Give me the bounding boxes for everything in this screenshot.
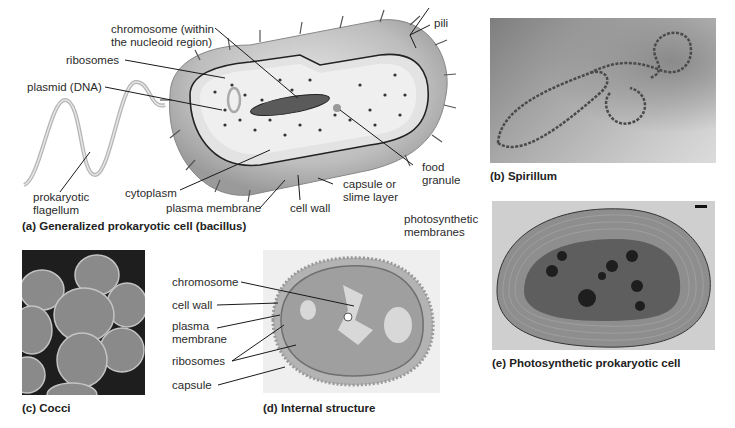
label-plasma-membrane: plasma membrane: [166, 202, 261, 215]
caption-d: (d) Internal structure: [263, 402, 375, 414]
label-cytoplasm: cytoplasm: [125, 187, 177, 200]
caption-b: (b) Spirillum: [490, 170, 557, 182]
label-pili: pili: [434, 17, 448, 30]
cocci-micrograph: [22, 250, 145, 395]
food-granule: [333, 104, 341, 112]
spirillum-micrograph: [490, 18, 716, 163]
label-d-ribosomes: ribosomes: [172, 355, 225, 368]
panel-a-bacillus-diagram: chromosome (within the nucleoid region) …: [0, 0, 460, 240]
scale-bar: [695, 205, 707, 208]
label-e-photosynthetic-membranes-line2: membranes: [404, 226, 465, 239]
label-e-photosynthetic-membranes: photosynthetic: [404, 213, 478, 226]
label-flagellum: prokaryotic: [33, 191, 89, 204]
caption-e: (e) Photosynthetic prokaryotic cell: [492, 357, 681, 369]
flagellum: [24, 82, 165, 185]
label-food-granule-line2: granule: [422, 174, 460, 187]
label-flagellum-line2: flagellum: [33, 204, 79, 217]
label-capsule-line2: slime layer: [343, 191, 398, 204]
label-cell-wall: cell wall: [290, 202, 330, 215]
internal-structure-micrograph: [263, 250, 440, 393]
label-food-granule: food: [422, 161, 444, 174]
label-ribosomes: ribosomes: [66, 54, 119, 67]
caption-a: (a) Generalized prokaryotic cell (bacill…: [22, 220, 246, 232]
label-d-cell-wall: cell wall: [172, 299, 212, 312]
label-d-capsule: capsule: [172, 379, 212, 392]
photosynthetic-cell-micrograph: [492, 201, 715, 350]
label-chromosome-line2: the nucleoid region): [111, 36, 212, 49]
label-plasmid: plasmid (DNA): [27, 81, 102, 94]
label-d-chromosome: chromosome: [172, 276, 238, 289]
label-capsule: capsule or: [343, 178, 396, 191]
caption-c: (c) Cocci: [22, 402, 71, 414]
label-d-plasma-membrane: plasma: [172, 320, 209, 333]
label-d-plasma-membrane-line2: membrane: [172, 333, 227, 346]
label-chromosome: chromosome (within: [111, 23, 214, 36]
